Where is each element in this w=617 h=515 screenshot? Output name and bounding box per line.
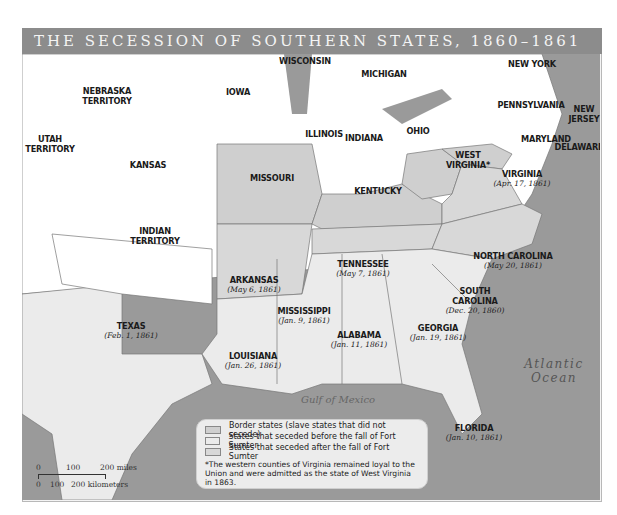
scale-km-100: 100 [50, 480, 64, 489]
label-wisconsin: WISCONSIN [279, 56, 331, 66]
scale-bar: 0 100 200 miles 0 100 200 kilometers [36, 463, 146, 490]
date-south-carolina: (Dec. 20, 1860) [446, 306, 505, 315]
label-michigan: MICHIGAN [361, 69, 407, 79]
scale-km-0: 0 [36, 480, 41, 489]
swatch-after-icon [205, 448, 221, 456]
label-georgia: GEORGIA [418, 323, 459, 333]
label-west-virginia: WEST [455, 150, 481, 160]
date-texas: (Feb. 1, 1861) [104, 331, 157, 340]
label-new-york: NEW YORK [508, 59, 557, 69]
scale-miles-100: 100 [66, 463, 80, 472]
date-tennessee: (May 7, 1861) [336, 269, 389, 278]
label-nebraska-2: TERRITORY [82, 96, 133, 106]
legend-label-after: States that seceded after the fall of Fo… [229, 443, 419, 461]
legend-item-after-sumter: States that seceded after the fall of Fo… [205, 446, 419, 457]
label-texas: TEXAS [117, 321, 146, 331]
label-mississippi: MISSISSIPPI [278, 306, 331, 316]
label-louisiana: LOUISIANA [229, 351, 278, 361]
label-pennsylvania: PENNSYLVANIA [497, 100, 565, 110]
label-indiana: INDIANA [345, 133, 384, 143]
label-new-jersey-2: JERSEY [567, 114, 600, 124]
date-alabama: (Jan. 11, 1861) [331, 340, 387, 349]
label-indian-territory-2: TERRITORY [130, 236, 181, 246]
label-atlantic: Atlantic [523, 357, 583, 371]
label-missouri: MISSOURI [250, 173, 294, 183]
label-nebraska: NEBRASKA [83, 86, 132, 96]
label-delaware: DELAWARE [555, 142, 600, 152]
date-arkansas: (May 6, 1861) [227, 285, 280, 294]
date-georgia: (Jan. 19, 1861) [410, 333, 466, 342]
label-iowa: IOWA [226, 87, 251, 97]
label-gulf-of-mexico: Gulf of Mexico [301, 394, 375, 405]
date-virginia: (Apr. 17, 1861) [494, 179, 551, 188]
date-florida: (Jan. 10, 1861) [446, 433, 502, 442]
label-arkansas: ARKANSAS [230, 275, 279, 285]
date-north-carolina: (May 20, 1861) [484, 261, 542, 270]
label-tennessee: TENNESSEE [337, 259, 388, 269]
label-ohio: OHIO [406, 126, 429, 136]
label-south-carolina: SOUTH [460, 286, 491, 296]
swatch-border-icon [205, 426, 221, 434]
date-louisiana: (Jan. 26, 1861) [225, 361, 281, 370]
legend-footnote: *The western counties of Virginia remain… [205, 460, 419, 487]
label-utah: UTAH [38, 134, 62, 144]
map-title: THE SECESSION OF SOUTHERN STATES, 1860–1… [22, 28, 602, 54]
state-missouri [217, 144, 322, 224]
label-south-carolina-2: CAROLINA [452, 296, 498, 306]
label-north-carolina: NORTH CAROLINA [473, 251, 553, 261]
swatch-before-icon [205, 437, 220, 445]
label-virginia: VIRGINIA [502, 169, 543, 179]
scale-km-200: 200 kilometers [71, 480, 128, 489]
label-illinois: ILLINOIS [305, 129, 343, 139]
label-indian-territory: INDIAN [139, 226, 171, 236]
label-new-jersey: NEW [574, 104, 595, 114]
label-west-virginia-2: VIRGINIA* [446, 160, 491, 170]
label-kentucky: KENTUCKY [354, 186, 403, 196]
label-florida: FLORIDA [455, 423, 494, 433]
label-alabama: ALABAMA [337, 330, 381, 340]
scale-miles-0: 0 [36, 463, 41, 472]
date-mississippi: (Jan. 9, 1861) [278, 316, 330, 325]
scale-line [38, 474, 106, 479]
label-kansas: KANSAS [130, 160, 167, 170]
label-utah-2: TERRITORY [25, 144, 76, 154]
map-legend: Border states (slave states that did not… [196, 419, 428, 489]
label-ocean: Ocean [531, 371, 577, 385]
scale-miles-200: 200 miles [100, 463, 137, 472]
